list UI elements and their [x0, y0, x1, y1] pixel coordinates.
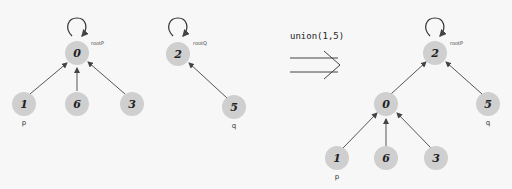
self-loop-icon	[169, 18, 187, 36]
node-5: 5	[222, 95, 246, 119]
node-5: 5	[476, 92, 500, 116]
node-3: 3	[120, 92, 144, 116]
rootP-label: rootP	[450, 40, 463, 46]
node-1: 1	[325, 146, 349, 170]
p-label: p	[22, 119, 27, 127]
svg-text:5: 5	[484, 98, 492, 111]
svg-text:0: 0	[382, 98, 390, 111]
node-6: 6	[374, 146, 398, 170]
p-label: p	[335, 173, 340, 181]
edge-1-0	[30, 63, 67, 94]
svg-text:2: 2	[173, 48, 182, 61]
node-0: 0	[65, 41, 89, 65]
tree-result: 2 rootP 0 5 q 1 p 6 3	[325, 18, 500, 181]
tree-p: 0 rootP 1 p 6 3	[12, 18, 144, 127]
node-2: 2	[166, 42, 190, 66]
svg-text:3: 3	[128, 98, 136, 111]
q-label: q	[486, 119, 490, 127]
node-2: 2	[423, 41, 447, 65]
node-6: 6	[65, 92, 89, 116]
edge-0-2	[391, 62, 426, 94]
svg-text:1: 1	[20, 98, 28, 111]
union-find-diagram: 0 rootP 1 p 6 3 2 rootQ 5 q	[0, 0, 512, 189]
edge-3-0	[88, 62, 125, 94]
edge-1-0	[343, 113, 377, 148]
svg-text:2: 2	[430, 47, 439, 60]
svg-text:6: 6	[382, 152, 390, 165]
svg-text:0: 0	[73, 47, 81, 60]
tree-q: 2 rootQ 5 q	[166, 18, 246, 130]
rootP-label: rootP	[91, 40, 104, 46]
svg-text:3: 3	[432, 152, 440, 165]
q-label: q	[232, 122, 236, 130]
self-loop-icon	[426, 18, 444, 36]
svg-text:1: 1	[333, 152, 341, 165]
edge-3-0	[397, 113, 431, 148]
svg-text:5: 5	[230, 101, 238, 114]
operation: union(1,5)	[290, 31, 344, 79]
edge-5-2	[446, 62, 482, 94]
svg-text:6: 6	[73, 98, 81, 111]
node-0: 0	[374, 92, 398, 116]
node-3: 3	[424, 146, 448, 170]
node-1: 1	[12, 92, 36, 116]
self-loop-icon	[68, 18, 86, 36]
edge-5-2	[189, 63, 227, 98]
rootQ-label: rootQ	[193, 40, 207, 46]
union-operation-label: union(1,5)	[290, 31, 344, 41]
implies-arrow-icon	[290, 51, 340, 79]
